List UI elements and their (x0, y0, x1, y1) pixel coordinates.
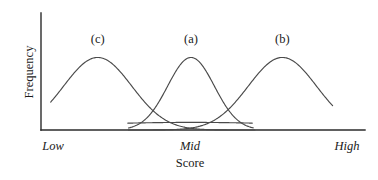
label-layer: Frequency (c) (a) (b) Low Mid High Score (0, 0, 378, 180)
x-tick-label-mid: Mid (180, 140, 200, 153)
x-tick-label-high: High (335, 140, 360, 153)
curve-label-c: (c) (91, 33, 105, 46)
figure-container: Frequency (c) (a) (b) Low Mid High Score (0, 0, 378, 180)
curve-label-a: (a) (184, 33, 198, 46)
x-axis-title: Score (176, 157, 204, 170)
x-tick-label-low: Low (42, 140, 64, 153)
y-axis-title: Frequency (23, 45, 36, 98)
curve-label-b: (b) (275, 33, 290, 46)
